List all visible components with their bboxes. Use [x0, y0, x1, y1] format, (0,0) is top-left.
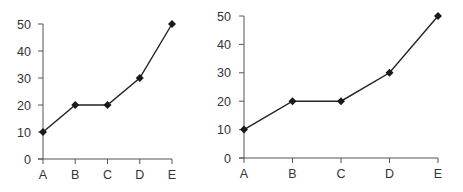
data-point-a	[240, 126, 248, 134]
y-tick-label: 50	[217, 10, 231, 24]
y-tick-label: 50	[17, 18, 31, 32]
x-tick-label: B	[71, 168, 79, 182]
x-tick-label: B	[288, 167, 296, 181]
x-tick-label: D	[385, 167, 394, 181]
x-tick-label: E	[434, 167, 442, 181]
x-tick-label: A	[39, 168, 48, 182]
x-tick-label: A	[240, 167, 249, 181]
data-point-c	[337, 97, 345, 105]
y-tick-label: 40	[17, 45, 31, 59]
y-tick-label: 0	[24, 153, 31, 167]
y-tick-label: 10	[217, 123, 231, 137]
y-tick-label: 20	[217, 95, 231, 109]
x-tick-label: C	[336, 167, 345, 181]
line-chart-wide: 01020304050ABCDE	[217, 10, 442, 182]
y-tick-label: 0	[224, 152, 231, 166]
charts-canvas: 01020304050ABCDE 01020304050ABCDE	[0, 0, 463, 192]
line-chart-narrow: 01020304050ABCDE	[17, 18, 176, 183]
y-tick-label: 30	[17, 72, 31, 86]
series-line	[43, 24, 172, 132]
x-tick-label: D	[135, 168, 144, 182]
series-line	[244, 16, 438, 130]
y-tick-label: 40	[217, 38, 231, 52]
data-point-e	[168, 20, 176, 28]
x-tick-label: C	[103, 168, 112, 182]
y-tick-label: 30	[217, 66, 231, 80]
x-tick-label: E	[168, 168, 176, 182]
y-tick-label: 20	[17, 99, 31, 113]
y-tick-label: 10	[17, 126, 31, 140]
data-point-b	[289, 97, 297, 105]
